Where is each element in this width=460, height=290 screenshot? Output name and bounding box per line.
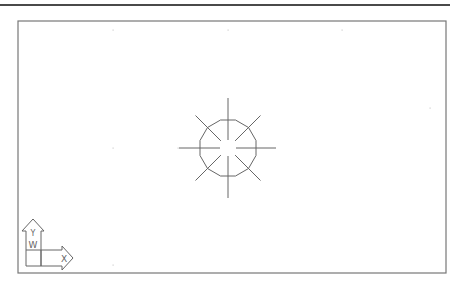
grid-dot [430,108,431,109]
grid-dot [113,265,114,266]
model-space-viewport[interactable]: Y W X [0,0,460,290]
ucs-icon: Y W X [22,219,73,270]
grid-dot [113,148,114,149]
ucs-y-label: Y [30,229,36,238]
drawing-canvas[interactable]: Y W X [0,0,460,290]
star-spokes [179,98,276,198]
grid-dot [113,30,114,31]
grid-dot [228,30,229,31]
star-spoke [235,116,260,141]
ucs-x-label: X [61,254,67,264]
grid-dot [342,30,343,31]
star-spoke [196,116,221,141]
star-spoke [235,155,260,180]
star-symbol[interactable] [179,98,276,198]
ucs-w-label: W [29,240,38,250]
grid-dot [178,148,179,149]
star-spoke [196,155,221,180]
viewport-frame [18,21,446,273]
